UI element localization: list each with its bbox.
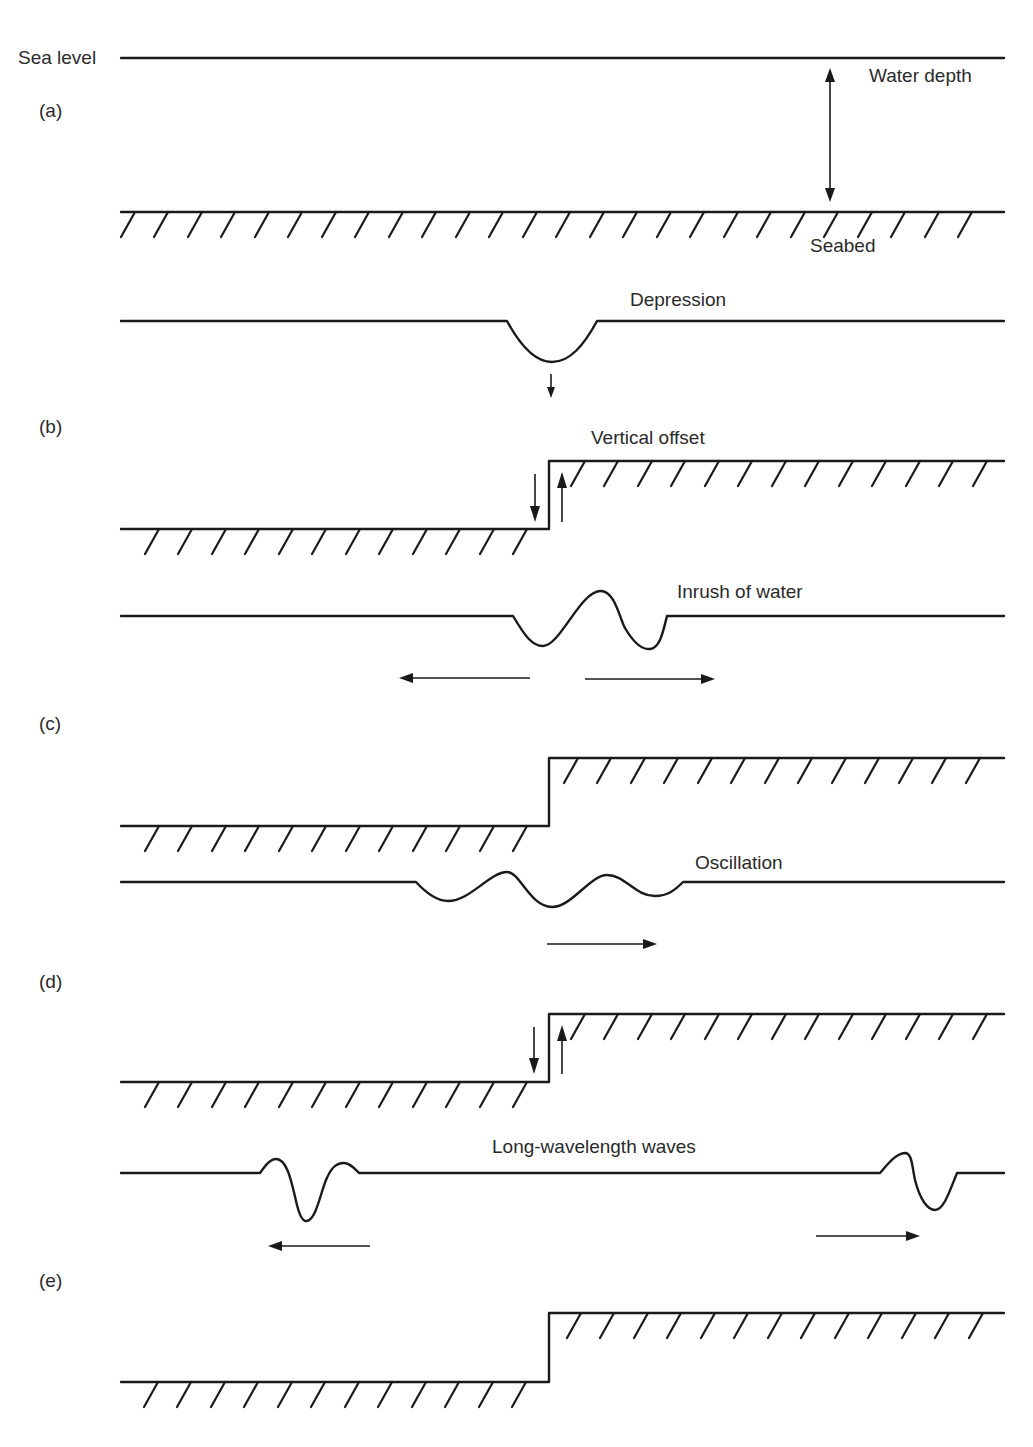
upper-seabed-hatching-c	[564, 758, 980, 783]
fault-up-arrow-icon	[557, 1025, 567, 1074]
panel-label-b: (b)	[39, 416, 62, 437]
panel-a: Sea level (a) Water depth Seabed	[18, 47, 1004, 256]
sea-surface-depression	[121, 321, 1004, 362]
upper-seabed-hatching-e	[567, 1313, 983, 1338]
down-arrow-icon	[547, 374, 555, 398]
upper-seabed-hatching-d	[571, 1014, 987, 1039]
water-depth-double-arrow-icon	[825, 68, 835, 202]
panel-d: Oscillation (d)	[39, 852, 1004, 1107]
panel-c: Inrush of water (c)	[39, 581, 1004, 851]
right-arrow-icon	[585, 674, 715, 684]
left-arrow-icon	[268, 1241, 370, 1251]
oscillation-label: Oscillation	[695, 852, 783, 873]
depression-label: Depression	[630, 289, 726, 310]
panel-label-a: (a)	[39, 100, 62, 121]
fault-down-arrow-icon	[529, 1027, 539, 1074]
lower-seabed-hatching-d	[145, 1082, 527, 1107]
right-arrow-icon	[547, 939, 657, 949]
vertical-offset-label: Vertical offset	[591, 427, 705, 448]
lower-seabed-hatching-e	[144, 1382, 526, 1407]
sea-surface-oscillation	[121, 872, 1004, 907]
panel-label-e: (e)	[39, 1270, 62, 1291]
panel-label-c: (c)	[39, 713, 61, 734]
panel-e: Long-wavelength waves (e)	[39, 1136, 1004, 1407]
left-arrow-icon	[399, 673, 530, 683]
seabed-label: Seabed	[810, 235, 876, 256]
offset-seabed-e	[121, 1313, 1004, 1382]
fault-down-arrow-icon	[530, 474, 540, 522]
right-arrow-icon	[816, 1231, 920, 1241]
offset-seabed-c	[121, 758, 1004, 826]
tsunami-generation-diagram: Sea level (a) Water depth Seabed Depress…	[0, 0, 1033, 1447]
sea-surface-inrush	[121, 591, 1004, 649]
sea-surface-long-waves	[121, 1153, 1004, 1221]
sea-level-label: Sea level	[18, 47, 96, 68]
lower-seabed-hatching-c	[145, 826, 527, 851]
inrush-label: Inrush of water	[677, 581, 803, 602]
upper-seabed-hatching	[571, 461, 987, 486]
panel-label-d: (d)	[39, 971, 62, 992]
fault-up-arrow-icon	[557, 472, 567, 522]
water-depth-label: Water depth	[869, 65, 972, 86]
panel-b: Depression (b) Vertical offset	[39, 289, 1004, 554]
lower-seabed-hatching	[145, 529, 527, 554]
seabed-hatching	[121, 212, 972, 237]
long-waves-label: Long-wavelength waves	[492, 1136, 696, 1157]
